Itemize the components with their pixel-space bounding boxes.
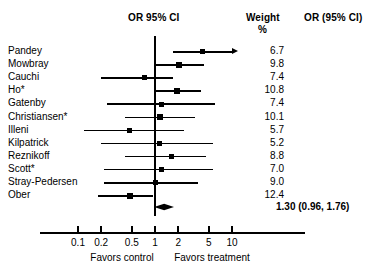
- axis-tick-label: 1: [152, 237, 158, 248]
- study-label: Mowbray: [8, 59, 49, 69]
- summary-diamond: [154, 200, 174, 214]
- point-estimate-marker: [127, 193, 133, 199]
- study-label: Kilpatrick: [8, 138, 49, 148]
- study-label: Reznikoff: [8, 151, 50, 161]
- axis-tick: [77, 226, 79, 234]
- weight-value: 8.8: [248, 151, 284, 161]
- weight-value: 12.4: [248, 190, 284, 200]
- axis-tick: [208, 226, 210, 234]
- forest-plot: OR 95% CI Weight % OR (95% CI) Pandey6.7…: [0, 0, 378, 272]
- weight-value: 6.7: [248, 46, 284, 56]
- study-label: Stray-Pedersen: [8, 177, 77, 187]
- axis-tick: [154, 226, 156, 234]
- reference-line-at-one: [154, 36, 156, 216]
- study-label: Ober: [8, 190, 30, 200]
- confidence-interval-bar: [125, 156, 206, 158]
- study-label: Gatenby: [8, 98, 46, 108]
- confidence-interval-bar: [101, 77, 173, 79]
- axis-tick: [177, 226, 179, 234]
- point-estimate-marker: [174, 88, 180, 94]
- axis-caption-favors-treatment: Favors treatment: [174, 252, 250, 263]
- axis-tick: [231, 226, 233, 234]
- axis-tick: [131, 226, 133, 234]
- weight-value: 5.2: [248, 138, 284, 148]
- study-label: Cauchi: [8, 72, 39, 82]
- weight-value: 10.1: [248, 112, 284, 122]
- confidence-interval-bar: [84, 130, 183, 132]
- point-estimate-marker: [142, 75, 147, 80]
- weight-value: 9.0: [248, 177, 284, 187]
- point-estimate-marker: [159, 102, 164, 107]
- point-estimate-marker: [157, 141, 162, 146]
- study-label: Pandey: [8, 46, 42, 56]
- column-header-or-ci: OR 95% CI: [128, 12, 179, 23]
- axis-tick-label: 5: [206, 237, 212, 248]
- confidence-interval-bar: [98, 195, 153, 197]
- study-label: Ho*: [8, 85, 25, 95]
- weight-value: 10.8: [248, 85, 284, 95]
- ci-arrow-icon: [232, 48, 238, 54]
- axis-tick-label: 0.1: [71, 237, 85, 248]
- confidence-interval-bar: [104, 182, 197, 184]
- column-header-or-ci-right: OR (95% CI): [304, 12, 362, 23]
- weight-value: 9.8: [248, 59, 284, 69]
- axis-tick-label: 0.2: [94, 237, 108, 248]
- weight-value: 7.4: [248, 98, 284, 108]
- axis-tick: [100, 226, 102, 234]
- column-header-weight: Weight: [246, 12, 280, 23]
- axis-tick-label: 0.5: [125, 237, 139, 248]
- x-axis-line: [40, 232, 305, 234]
- study-label: Scott*: [8, 164, 35, 174]
- weight-value: 5.7: [248, 125, 284, 135]
- point-estimate-marker: [159, 167, 164, 172]
- weight-value: 7.4: [248, 72, 284, 82]
- axis-caption-favors-control: Favors control: [90, 252, 153, 263]
- summary-or-value: 1.30 (0.96, 1.76): [276, 201, 349, 212]
- axis-tick-label: 2: [175, 237, 181, 248]
- point-estimate-marker: [157, 114, 163, 120]
- point-estimate-marker: [153, 180, 158, 185]
- weight-value: 7.0: [248, 164, 284, 174]
- point-estimate-marker: [127, 128, 132, 133]
- study-label: Christiansen*: [8, 112, 67, 122]
- point-estimate-marker: [169, 154, 174, 159]
- axis-tick-label: 10: [226, 237, 237, 248]
- study-label: Illeni: [8, 125, 29, 135]
- column-header-percent: %: [258, 24, 267, 35]
- point-estimate-marker: [200, 49, 205, 54]
- point-estimate-marker: [176, 62, 182, 68]
